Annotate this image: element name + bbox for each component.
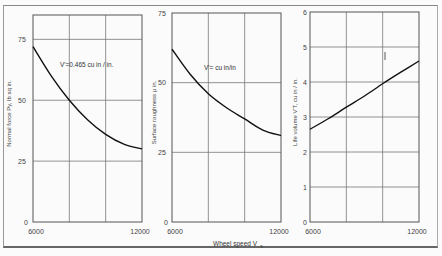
curve-annotation: V'= cu in/in bbox=[204, 64, 236, 71]
y-axis-label: Normal force Py, lb sq in. bbox=[6, 80, 12, 147]
y-tick-label: 3 bbox=[303, 114, 307, 121]
y-tick-label: 50 bbox=[18, 97, 26, 104]
y-tick-label: 25 bbox=[158, 149, 166, 156]
y-tick-label: 4 bbox=[303, 79, 307, 86]
x-tick-label: 12000 bbox=[269, 228, 289, 235]
y-tick-label: 5 bbox=[303, 44, 307, 51]
y-tick-label: 25 bbox=[18, 158, 26, 165]
y-tick-label: 0 bbox=[303, 219, 307, 226]
y-tick-label: 75 bbox=[158, 10, 166, 17]
x-tick-label: 6000 bbox=[305, 228, 321, 235]
curve-annotation: V'=0.465 cu in / in. bbox=[60, 61, 114, 68]
y-tick-label: 0 bbox=[164, 219, 168, 226]
y-tick-label: 1 bbox=[303, 184, 307, 191]
x-tick-label: 6000 bbox=[167, 228, 183, 235]
y-tick-label: 6 bbox=[303, 9, 307, 16]
x-axis-label-subscript: s bbox=[260, 243, 263, 249]
y-axis-label: Life volume V'T, cu in / in. bbox=[292, 78, 298, 146]
x-tick-label: 12000 bbox=[130, 228, 150, 235]
x-tick-label: 12000 bbox=[407, 228, 427, 235]
data-curve bbox=[172, 49, 281, 135]
data-curve bbox=[310, 61, 419, 129]
y-axis-label: Surface roughness μ in. bbox=[151, 80, 157, 144]
y-tick-label: 75 bbox=[18, 36, 26, 43]
plot-area-1 bbox=[33, 15, 142, 222]
chart-figure: 0255075600012000Normal force Py, lb sq i… bbox=[0, 0, 442, 256]
x-axis-label: Wheel speed V bbox=[213, 240, 258, 248]
y-tick-label: 0 bbox=[24, 219, 28, 226]
y-tick-label: 50 bbox=[158, 79, 166, 86]
y-tick-label: 2 bbox=[303, 149, 307, 156]
x-tick-label: 6000 bbox=[28, 228, 44, 235]
plot-area-2 bbox=[172, 13, 281, 222]
